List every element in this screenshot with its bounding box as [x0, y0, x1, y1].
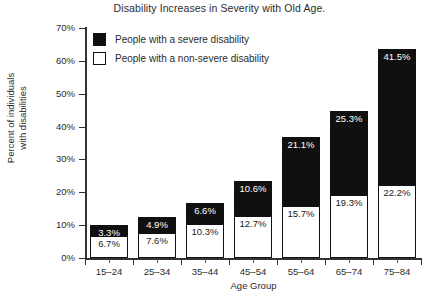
bar-value-label: 12.7% — [235, 218, 271, 229]
x-axis-tick — [325, 259, 326, 265]
chart-figure: Disability Increases in Severity with Ol… — [0, 0, 439, 296]
y-axis-tick-label: 30% — [43, 153, 75, 164]
bar-segment-non-severe[interactable]: 7.6% — [138, 233, 176, 258]
x-axis-minor-tick — [157, 259, 158, 263]
bar-segment-severe[interactable]: 4.9% — [138, 217, 176, 233]
bar-group[interactable]: 19.3%25.3% — [330, 111, 368, 258]
bar-group[interactable]: 15.7%21.1% — [282, 137, 320, 258]
bar-segment-non-severe[interactable]: 22.2% — [378, 185, 416, 258]
y-axis-title: Percent of individuals with disabilities — [5, 38, 29, 198]
y-axis-tick-label: 0% — [43, 252, 75, 263]
x-axis-title: Age Group — [85, 280, 422, 291]
bar-segment-severe[interactable]: 3.3% — [90, 225, 128, 236]
bar-value-label: 3.3% — [91, 227, 127, 238]
y-axis-tick-label: 10% — [43, 219, 75, 230]
x-axis-tick — [421, 259, 422, 265]
y-axis-labels: 0%10%20%30%40%50%60%70% — [42, 0, 75, 296]
legend: People with a severe disabilityPeople wi… — [93, 30, 323, 68]
legend-item-label: People with a severe disability — [115, 34, 249, 45]
bar-group[interactable]: 12.7%10.6% — [234, 181, 272, 258]
bar-value-label: 10.6% — [235, 183, 271, 194]
bar-segment-non-severe[interactable]: 12.7% — [234, 216, 272, 258]
bar-value-label: 19.3% — [331, 197, 367, 208]
bar-value-label: 4.9% — [139, 219, 175, 230]
x-axis-minor-tick — [109, 259, 110, 263]
x-axis-minor-tick — [349, 259, 350, 263]
bar-value-label: 10.3% — [187, 226, 223, 237]
bar-value-label: 7.6% — [139, 235, 175, 246]
bar-group[interactable]: 10.3%6.6% — [186, 202, 224, 258]
x-axis-tick — [229, 259, 230, 265]
legend-swatch-non-severe-icon — [93, 52, 106, 65]
y-axis-tick-label: 40% — [43, 121, 75, 132]
x-axis-minor-tick — [205, 259, 206, 263]
bar-group[interactable]: 6.7%3.3% — [90, 225, 128, 258]
bar-segment-severe[interactable]: 41.5% — [378, 49, 416, 185]
bar-segment-non-severe[interactable]: 15.7% — [282, 206, 320, 258]
bar-segment-severe[interactable]: 21.1% — [282, 137, 320, 206]
bar-value-label: 25.3% — [331, 113, 367, 124]
bar-segment-non-severe[interactable]: 19.3% — [330, 195, 368, 258]
bar-value-label: 6.7% — [91, 238, 127, 249]
bar-segment-severe[interactable]: 6.6% — [186, 203, 224, 225]
bar-segment-severe[interactable]: 10.6% — [234, 181, 272, 216]
y-axis-title-line-1: Percent of individuals — [5, 38, 17, 198]
legend-item[interactable]: People with a non-severe disability — [93, 49, 323, 68]
bar-value-label: 41.5% — [379, 51, 415, 62]
bar-value-label: 6.6% — [187, 205, 223, 216]
bar-group[interactable]: 22.2%41.5% — [378, 49, 416, 258]
x-axis-tick — [277, 259, 278, 265]
y-axis-tick-label: 20% — [43, 186, 75, 197]
x-axis-tick — [373, 259, 374, 265]
bar-value-label: 22.2% — [379, 187, 415, 198]
legend-swatch-severe-icon — [93, 33, 106, 46]
y-axis-tick-label: 70% — [43, 22, 75, 33]
x-axis-minor-tick — [301, 259, 302, 263]
x-axis-tick-label: 75–84 — [367, 266, 427, 277]
bar-segment-non-severe[interactable]: 10.3% — [186, 224, 224, 258]
bar-value-label: 15.7% — [283, 208, 319, 219]
y-axis-title-line-2: with disabilities — [17, 38, 29, 198]
x-axis-minor-tick — [397, 259, 398, 263]
legend-item-label: People with a non-severe disability — [115, 53, 269, 64]
bar-segment-severe[interactable]: 25.3% — [330, 111, 368, 194]
x-axis-minor-tick — [253, 259, 254, 263]
y-axis-tick-label: 60% — [43, 55, 75, 66]
bar-value-label: 21.1% — [283, 139, 319, 150]
x-axis-tick — [181, 259, 182, 265]
legend-item[interactable]: People with a severe disability — [93, 30, 323, 49]
x-axis-tick — [133, 259, 134, 265]
bar-segment-non-severe[interactable]: 6.7% — [90, 236, 128, 258]
bar-group[interactable]: 7.6%4.9% — [138, 217, 176, 258]
y-axis-tick-label: 50% — [43, 88, 75, 99]
x-axis-tick — [85, 259, 86, 265]
